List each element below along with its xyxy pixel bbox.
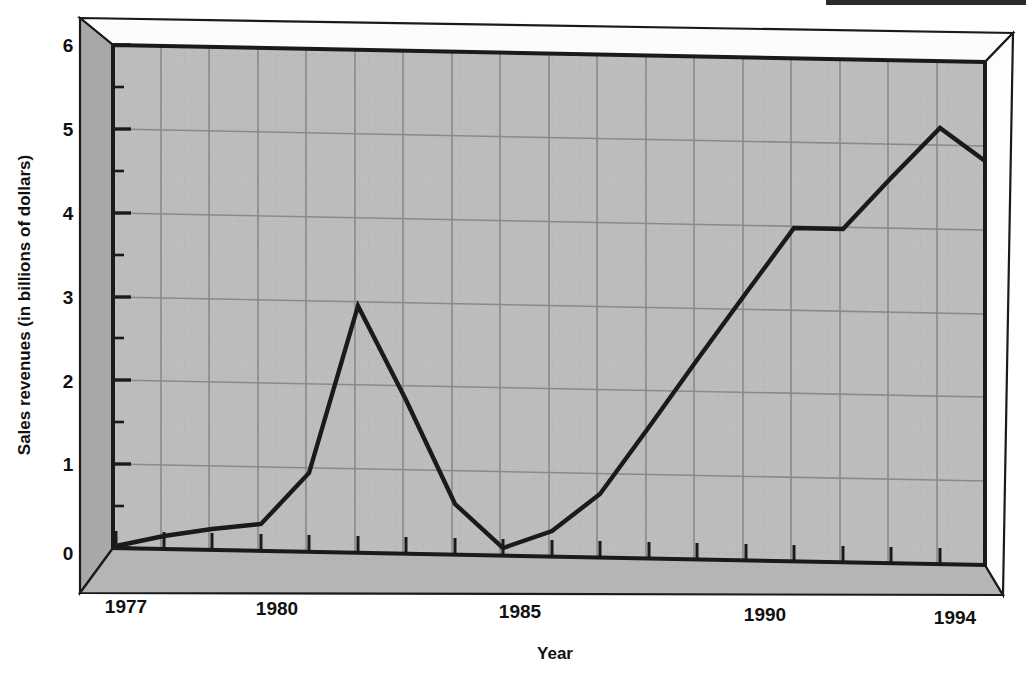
x-tick-label-1994: 1994 xyxy=(934,607,977,628)
y-tick-label-3: 3 xyxy=(63,287,74,308)
y-tick-label-2: 2 xyxy=(63,371,74,392)
y-axis-title: Sales revenues (in billions of dollars) xyxy=(15,155,34,455)
y-tick-label-6: 6 xyxy=(63,35,74,56)
line-chart-svg: 6 5 4 3 2 1 0 1977 1980 1985 1990 1994 Y… xyxy=(0,0,1026,677)
y-tick-label-1: 1 xyxy=(63,454,74,475)
x-tick-label-1990: 1990 xyxy=(744,604,786,625)
x-tick-label-1977: 1977 xyxy=(105,596,147,617)
y-tick-labels: 6 5 4 3 2 1 0 xyxy=(63,35,74,564)
x-axis-title: Year xyxy=(537,644,573,663)
y-tick-label-5: 5 xyxy=(63,119,74,140)
y-tick-label-4: 4 xyxy=(63,203,74,224)
chart-figure: 6 5 4 3 2 1 0 1977 1980 1985 1990 1994 Y… xyxy=(0,0,1026,677)
x-tick-label-1985: 1985 xyxy=(499,601,542,622)
frame-bevel-right xyxy=(985,33,1013,595)
plot-area xyxy=(113,45,985,565)
y-tick-label-0: 0 xyxy=(63,543,74,564)
x-tick-labels: 1977 1980 1985 1990 1994 xyxy=(105,596,977,628)
frame-bevel-left xyxy=(80,18,113,593)
scan-edge-top xyxy=(826,0,1026,5)
x-tick-label-1980: 1980 xyxy=(256,598,298,619)
